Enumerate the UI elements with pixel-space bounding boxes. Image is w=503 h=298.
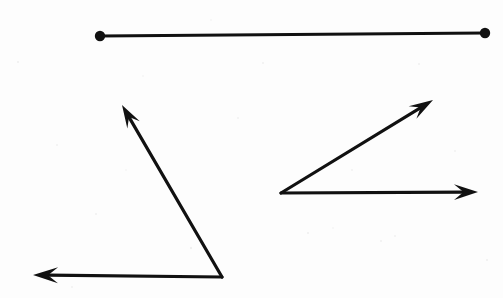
right-angle-ray-horizontal-stroke — [281, 192, 463, 193]
paper-speckle-dot — [332, 227, 334, 229]
paper-speckle-dot — [71, 286, 73, 288]
paper-speckle-dot — [486, 259, 488, 261]
paper-speckle-dot — [17, 61, 19, 63]
paper-speckle-dot — [210, 19, 212, 21]
paper-speckle-dot — [237, 117, 239, 119]
paper-speckle-dot — [56, 144, 58, 146]
paper-background — [0, 0, 503, 298]
figure-canvas — [0, 0, 503, 298]
paper-speckle-dot — [142, 75, 144, 77]
left-angle-ray-horizontal-stroke — [48, 275, 222, 277]
paper-speckle-dot — [380, 240, 382, 242]
paper-speckle-dot — [190, 247, 192, 249]
paper-speckle-dot — [262, 62, 264, 64]
line-segment-endpoint-dot-left — [95, 31, 105, 41]
paper-speckle-dot — [351, 169, 353, 171]
paper-speckle-dot — [454, 150, 456, 152]
paper-speckle-dot — [95, 213, 97, 215]
paper-speckle-dot — [307, 232, 309, 234]
paper-speckle-dot — [418, 63, 420, 65]
geometry-diagram — [0, 0, 503, 298]
paper-speckle-dot — [394, 235, 396, 237]
line-segment-endpoint-dot-right — [480, 28, 490, 38]
paper-speckle-dot — [125, 169, 127, 171]
